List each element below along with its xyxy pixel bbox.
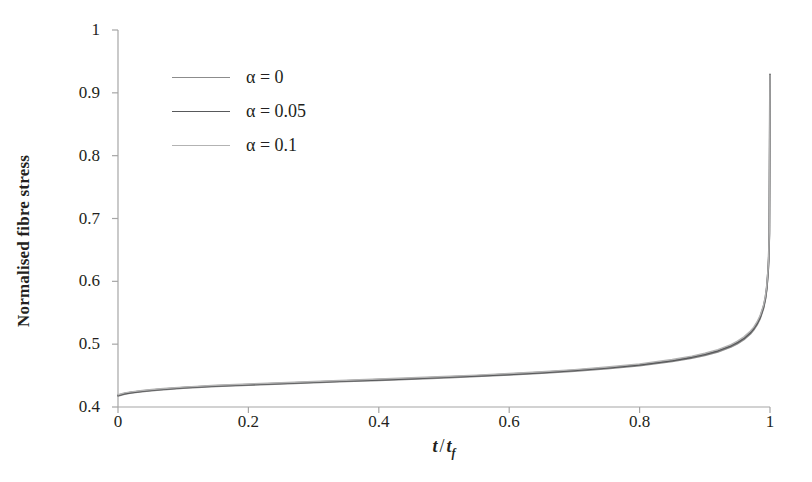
legend-item-0: α = 0 <box>172 60 306 94</box>
chart-figure: 0.40.50.60.70.80.91 00.20.40.60.81 Norma… <box>0 0 812 482</box>
x-axis-title: t/tf <box>118 436 770 461</box>
legend-item-1: α = 0.05 <box>172 94 306 128</box>
legend-label: α = 0 <box>246 67 284 88</box>
y-axis-title: Normalised fibre stress <box>0 0 48 482</box>
x-tick-label: 0.4 <box>339 412 419 432</box>
x-tick-label: 0.8 <box>600 412 680 432</box>
x-tick-label: 0.6 <box>469 412 549 432</box>
legend-label: α = 0.05 <box>246 101 306 122</box>
legend-swatch-line-icon <box>172 77 230 78</box>
chart-legend: α = 0α = 0.05α = 0.1 <box>172 60 306 162</box>
x-axis-title-subscript: f <box>452 446 456 460</box>
x-tick-label: 0.2 <box>208 412 288 432</box>
x-axis-title-separator: / <box>437 436 446 456</box>
legend-swatch-line-icon <box>172 111 230 112</box>
x-tick-label: 0 <box>78 412 158 432</box>
legend-item-2: α = 0.1 <box>172 128 306 162</box>
legend-label: α = 0.1 <box>246 135 297 156</box>
plot-area <box>0 0 812 482</box>
x-tick-label: 1 <box>730 412 810 432</box>
legend-swatch-line-icon <box>172 145 230 146</box>
